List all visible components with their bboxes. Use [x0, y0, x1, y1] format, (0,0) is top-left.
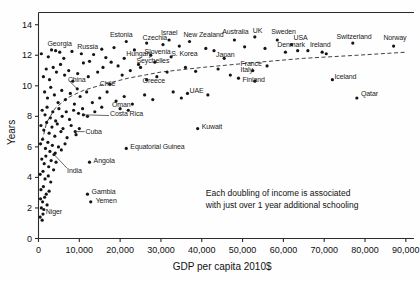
point-label: Ireland	[310, 41, 331, 48]
x-tick-label: 80,000	[351, 246, 379, 255]
data-point	[44, 154, 47, 157]
data-point	[46, 141, 49, 144]
annotation-line-2: with just over 1 year additional schooli…	[206, 200, 359, 211]
point-label: Sweden	[271, 28, 296, 35]
point-label: France	[241, 60, 262, 67]
data-point	[45, 106, 48, 109]
data-point	[104, 56, 107, 59]
data-point	[50, 48, 53, 51]
data-point	[77, 112, 80, 115]
data-point	[43, 113, 46, 116]
data-point	[72, 109, 75, 112]
data-point	[56, 122, 59, 125]
data-point-labeled	[296, 49, 299, 52]
data-point	[78, 127, 81, 130]
data-point	[60, 148, 63, 151]
y-axis-title: Years	[6, 119, 17, 144]
data-point	[48, 132, 51, 135]
data-point	[151, 98, 154, 101]
x-tick-label: 60,000	[270, 246, 298, 255]
data-point-labeled	[41, 212, 44, 215]
point-label: Iceland	[334, 73, 356, 80]
point-label: Norway	[383, 34, 406, 41]
data-point	[263, 47, 266, 50]
data-point	[325, 52, 328, 55]
data-point-labeled	[196, 127, 199, 130]
x-tick-label: 30,000	[147, 246, 175, 255]
data-point	[43, 90, 46, 93]
data-point	[105, 90, 108, 93]
data-point	[85, 90, 88, 93]
data-point	[45, 67, 48, 70]
data-point	[306, 49, 309, 52]
data-point	[172, 90, 175, 93]
point-label: Chile	[100, 80, 115, 87]
data-point	[204, 47, 207, 50]
data-point	[46, 96, 49, 99]
data-point-labeled	[54, 49, 57, 52]
point-label: Russia	[77, 43, 98, 50]
data-point	[82, 61, 85, 64]
data-point-labeled	[237, 77, 240, 80]
point-label: UAE	[190, 87, 204, 94]
data-point	[216, 67, 219, 70]
point-label: Gambia	[92, 188, 116, 195]
data-point	[43, 177, 46, 180]
point-label: Estonia	[110, 31, 133, 38]
data-point	[206, 93, 209, 96]
data-point	[42, 185, 45, 188]
data-point	[284, 51, 287, 54]
data-point	[63, 142, 66, 145]
x-axis-title: GDP per capita 2010$	[173, 261, 272, 272]
data-point	[41, 170, 44, 173]
point-label: Finland	[243, 76, 265, 83]
data-point	[243, 45, 246, 48]
data-point	[39, 188, 42, 191]
data-point	[61, 115, 64, 118]
data-point-labeled	[351, 41, 354, 44]
data-point	[60, 89, 63, 92]
data-point-labeled	[86, 193, 89, 196]
y-tick-label: 2	[8, 203, 32, 212]
data-point	[112, 46, 115, 49]
data-point	[53, 135, 56, 138]
x-tick-label: 10,000	[66, 246, 94, 255]
data-point	[79, 95, 82, 98]
point-label: Japan	[216, 51, 235, 58]
data-point	[65, 136, 68, 139]
data-point	[42, 128, 45, 131]
data-point	[41, 219, 44, 222]
data-point	[62, 57, 65, 60]
data-point	[70, 124, 73, 127]
data-point	[41, 109, 44, 112]
data-point-labeled	[188, 40, 191, 43]
point-label: Niger	[46, 208, 62, 215]
y-tick-label: 12	[8, 51, 32, 60]
data-point	[63, 74, 66, 77]
point-label: Seychelles	[136, 57, 169, 64]
data-point	[50, 159, 53, 162]
data-point-labeled	[321, 51, 324, 54]
point-label: Cuba	[85, 128, 101, 135]
data-point	[101, 66, 104, 69]
data-point	[64, 98, 67, 101]
data-point	[131, 103, 134, 106]
point-label: Angola	[94, 157, 115, 164]
point-label: Denmark	[277, 41, 305, 48]
point-label: Italy	[241, 66, 253, 73]
data-point	[58, 51, 61, 54]
data-point	[76, 72, 79, 75]
data-point-labeled	[100, 48, 103, 51]
data-point-labeled	[233, 38, 236, 41]
data-point	[48, 78, 51, 81]
data-point	[45, 193, 48, 196]
data-point	[165, 70, 168, 73]
data-point	[39, 173, 42, 176]
data-point	[47, 174, 50, 177]
point-label: Georgia	[47, 40, 71, 47]
data-point	[81, 107, 84, 110]
data-point	[69, 92, 72, 95]
scatter-chart-figure: 02468101214010,00020,00030,00040,00050,0…	[0, 0, 420, 281]
point-label: Qatar	[361, 90, 378, 97]
data-point	[55, 70, 58, 73]
